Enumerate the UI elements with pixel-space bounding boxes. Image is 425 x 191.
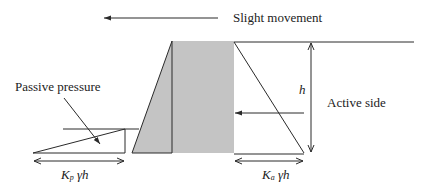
passive-pressure-triangle [33,129,125,153]
passive-pressure-label: Passive pressure [15,79,101,94]
active-side-label: Active side [327,95,386,110]
earth-pressure-diagram: Slight movement h Active side Passive pr… [0,0,425,191]
active-pressure-triangle [234,42,304,154]
retaining-wall [132,41,234,153]
movement-label: Slight movement [233,10,323,25]
kp-gamma-h-label: Kp γh [60,167,89,182]
ka-gamma-h-label: Ka γh [261,167,290,182]
height-label: h [299,82,306,97]
passive-leader-arrow [64,98,100,144]
